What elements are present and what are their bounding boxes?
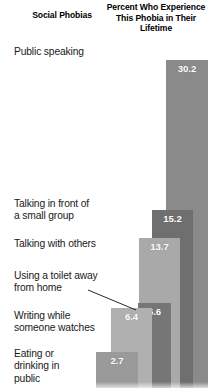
category-label-small-group: Talking in front of a small group [14, 198, 89, 223]
bar: 2.7 [96, 352, 138, 388]
bar-value-label: 2.7 [96, 355, 138, 366]
column-header-social-phobias: Social Phobias [18, 10, 106, 21]
bar-value-label: 15.2 [152, 213, 193, 224]
category-label-writing-watched: Writing while someone watches [14, 310, 95, 335]
social-phobias-bar-chart: Social Phobias Percent Who Experience Th… [0, 0, 213, 392]
bar-value-label: 13.7 [139, 241, 180, 252]
category-label-talking-others: Talking with others [14, 238, 96, 250]
bar-value-label: 6.4 [111, 311, 152, 322]
category-label-toilet-away: Using a toilet away from home [14, 270, 98, 295]
category-label-public-speaking: Public speaking [14, 46, 84, 58]
column-header-percent-lifetime: Percent Who Experience This Phobia in Th… [100, 2, 212, 34]
bar-value-label: 30.2 [166, 63, 208, 74]
category-label-eating-drinking: Eating or drinking in public [14, 348, 59, 385]
